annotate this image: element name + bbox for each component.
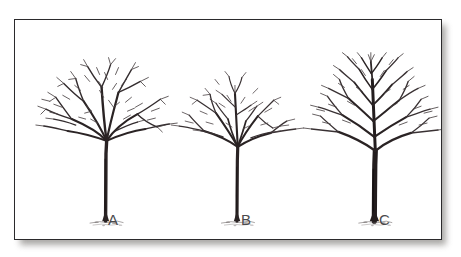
tree-c (304, 53, 441, 227)
tree-a (36, 58, 177, 227)
tree-b (171, 72, 303, 227)
tree-label-b: B (241, 212, 251, 227)
figure-root: A B C (0, 0, 461, 257)
tree-illustration-scene (15, 20, 441, 239)
tree-label-a: A (108, 212, 118, 227)
tree-label-c: C (379, 212, 390, 227)
figure-frame: A B C (14, 19, 442, 240)
